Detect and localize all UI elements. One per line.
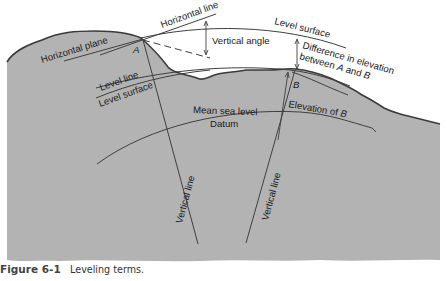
label-datum: Datum [210,118,238,129]
leveling-diagram: Horizontal line Horizontal plane A Verti… [0,0,448,281]
figure-number: Figure 6-1 [0,263,61,275]
label-vertical-angle: Vertical angle [212,35,270,46]
figure-caption: Figure 6-1 Leveling terms. [0,263,144,275]
label-point-b: B [293,79,300,90]
leveling-terms-figure: Horizontal line Horizontal plane A Verti… [0,0,448,281]
label-point-a: A [132,44,139,55]
figure-caption-text: Leveling terms. [70,264,144,275]
label-horizontal-line: Horizontal line [159,0,220,30]
label-mean-sea-level: Mean sea level [193,104,258,117]
